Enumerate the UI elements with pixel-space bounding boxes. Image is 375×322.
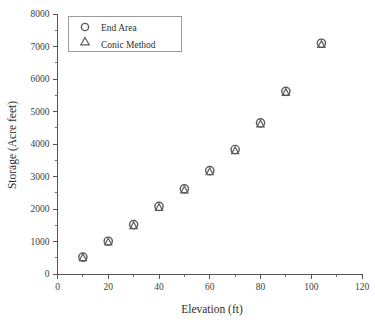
y-tick-label: 2000 [31, 204, 50, 214]
data-point-triangle [232, 147, 239, 154]
x-tick-label: 100 [304, 282, 319, 292]
x-tick-label: 0 [55, 282, 60, 292]
y-tick-label: 5000 [31, 107, 50, 117]
data-point-triangle [282, 89, 289, 96]
x-tick-label: 80 [256, 282, 266, 292]
data-point-triangle [155, 204, 162, 211]
chart-canvas: 010002000300040005000600070008000 020406… [0, 0, 375, 322]
data-point-triangle [130, 222, 137, 229]
x-tick-label: 40 [154, 282, 164, 292]
legend-label-conic-method: Conic Method [101, 40, 156, 50]
data-point-triangle [181, 186, 188, 193]
y-tick-label: 1000 [31, 237, 50, 247]
axes-group [58, 14, 363, 275]
x-axis-tick-labels: 020406080100120 [55, 282, 369, 292]
y-tick-label: 6000 [31, 74, 50, 84]
y-tick-label: 7000 [31, 42, 50, 52]
y-axis-title: Storage (Acre feet) [6, 101, 19, 189]
legend-label-end-area: End Area [101, 23, 137, 33]
data-point-triangle [79, 254, 86, 261]
scatter-chart-figure: 010002000300040005000600070008000 020406… [0, 0, 375, 322]
data-points-group [79, 39, 326, 261]
x-axis-title: Elevation (ft) [181, 303, 243, 316]
x-tick-label: 120 [355, 282, 370, 292]
y-tick-label: 0 [45, 269, 50, 279]
data-point-triangle [257, 120, 264, 127]
x-tick-label: 60 [205, 282, 215, 292]
data-point-triangle [318, 41, 325, 48]
y-axis-ticks [53, 14, 58, 274]
data-point-triangle [206, 168, 213, 175]
y-tick-label: 3000 [31, 172, 50, 182]
y-tick-label: 4000 [31, 139, 50, 149]
y-axis-tick-labels: 010002000300040005000600070008000 [31, 9, 50, 279]
legend: End Area Conic Method [69, 17, 182, 52]
data-point-triangle [105, 238, 112, 245]
y-tick-label: 8000 [31, 9, 50, 19]
x-tick-label: 20 [104, 282, 114, 292]
